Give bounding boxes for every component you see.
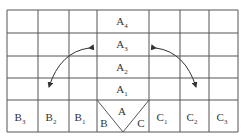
cell-label: B2 [46, 111, 57, 126]
cell-label: B3 [15, 111, 26, 126]
cell-label: B1 [75, 111, 86, 126]
cell-label: C [137, 117, 144, 129]
cell-label: C2 [187, 111, 198, 126]
right-curved-arrow [156, 48, 196, 87]
cell-label: A [118, 105, 126, 117]
cell-label: A2 [116, 61, 128, 76]
cell-label: A1 [116, 83, 128, 98]
cell-label: C1 [157, 111, 168, 126]
cell-label: A3 [116, 38, 128, 53]
fold-line-right [123, 100, 149, 132]
fold-diagram: A4A3A2A1ABCB3B2B1C1C2C3 [0, 0, 244, 139]
cell-label: A4 [116, 15, 128, 30]
cell-label: C3 [217, 111, 228, 126]
cell-label: B [100, 117, 107, 129]
